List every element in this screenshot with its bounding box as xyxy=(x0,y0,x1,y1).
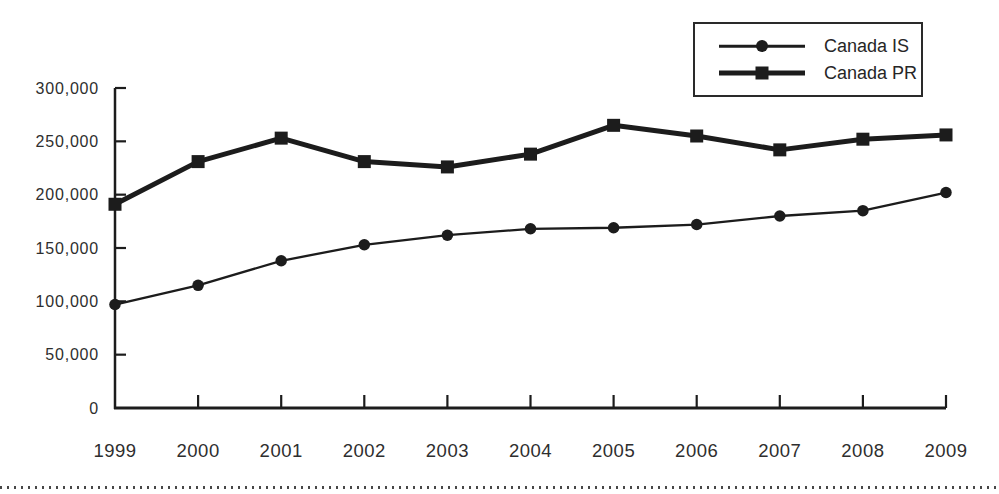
series-line-circle xyxy=(115,193,946,305)
square-marker-icon xyxy=(756,67,769,80)
data-point-circle xyxy=(525,223,537,235)
x-tick-label: 1999 xyxy=(93,440,136,461)
legend-item-canada-is: Canada IS xyxy=(695,33,921,60)
legend: Canada IS Canada PR xyxy=(693,22,923,97)
data-point-square xyxy=(607,119,620,132)
data-point-square xyxy=(690,130,703,143)
x-tick-label: 2003 xyxy=(426,440,469,461)
series-line-square xyxy=(115,125,946,204)
y-tick-label: 0 xyxy=(89,400,99,417)
data-point-square xyxy=(524,148,537,161)
data-point-circle xyxy=(608,222,620,234)
x-tick-label: 2000 xyxy=(177,440,220,461)
dotted-rule xyxy=(0,486,999,489)
y-tick-label: 150,000 xyxy=(36,240,99,257)
data-point-circle xyxy=(940,187,952,199)
data-point-square xyxy=(856,133,869,146)
legend-label-canada-pr: Canada PR xyxy=(824,63,917,84)
figure-page: 050,000100,000150,000200,000250,000300,0… xyxy=(0,0,999,494)
canada-is-sample xyxy=(719,33,805,60)
data-point-circle xyxy=(275,255,287,267)
y-tick-label: 200,000 xyxy=(36,186,99,203)
data-point-circle xyxy=(192,280,204,292)
y-tick-label: 300,000 xyxy=(36,80,99,97)
data-point-square xyxy=(358,155,371,168)
x-tick-label: 2001 xyxy=(260,440,303,461)
data-point-circle xyxy=(857,205,869,217)
data-point-circle xyxy=(109,299,121,311)
data-point-square xyxy=(773,143,786,156)
y-tick-label: 250,000 xyxy=(36,133,99,150)
data-point-square xyxy=(109,198,122,211)
data-point-circle xyxy=(359,239,371,251)
y-tick-label: 50,000 xyxy=(45,346,99,363)
data-point-circle xyxy=(774,210,786,222)
y-tick-label: 100,000 xyxy=(36,293,99,310)
circle-marker-icon xyxy=(756,40,768,52)
x-tick-label: 2009 xyxy=(924,440,967,461)
data-point-square xyxy=(275,132,288,145)
legend-label-canada-is: Canada IS xyxy=(824,36,909,57)
legend-item-canada-pr: Canada PR xyxy=(695,60,921,87)
x-tick-label: 2007 xyxy=(758,440,801,461)
data-point-square xyxy=(940,128,953,141)
data-point-circle xyxy=(691,219,703,231)
data-point-circle xyxy=(442,229,454,241)
data-point-square xyxy=(441,160,454,173)
x-tick-label: 2006 xyxy=(675,440,718,461)
x-tick-label: 2004 xyxy=(509,440,552,461)
x-tick-label: 2008 xyxy=(841,440,884,461)
x-tick-label: 2005 xyxy=(592,440,635,461)
x-tick-label: 2002 xyxy=(343,440,386,461)
data-point-square xyxy=(192,155,205,168)
canada-pr-sample xyxy=(719,60,805,87)
